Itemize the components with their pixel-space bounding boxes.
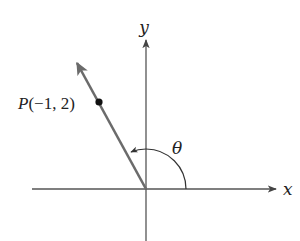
point-p-coords: (−1, 2) — [28, 94, 74, 113]
angle-diagram: y x θ P(−1, 2) — [0, 0, 300, 241]
point-p-label: P(−1, 2) — [17, 94, 75, 113]
theta-label: θ — [172, 138, 182, 158]
x-axis-label: x — [283, 179, 293, 199]
terminal-ray — [77, 63, 146, 189]
y-axis-label: y — [138, 17, 149, 37]
point-p-dot — [95, 98, 102, 105]
point-p-name: P — [17, 94, 28, 113]
